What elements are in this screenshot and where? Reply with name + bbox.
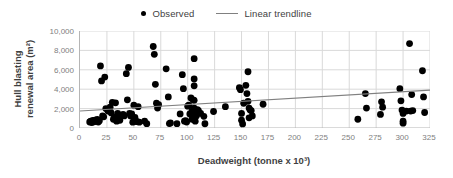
legend-label-trendline: Linear trendline (244, 8, 311, 19)
x-axis-title: Deadweight (tonne x 10³) (79, 155, 429, 166)
x-axis-tick-label: 125 (207, 133, 220, 142)
x-axis-tick-label: 300 (395, 133, 408, 142)
data-point (245, 68, 252, 75)
x-axis-tick-label: 0 (77, 133, 81, 142)
data-point (237, 86, 244, 93)
chart-legend: Observed Linear trendline (0, 4, 453, 22)
x-axis-tick-label: 25 (101, 133, 110, 142)
x-axis-tick-label: 100 (180, 133, 193, 142)
y-axis-tick-label: 10,000 (30, 27, 74, 36)
data-points (86, 40, 428, 127)
legend-item-observed: Observed (141, 8, 194, 19)
data-point (150, 43, 157, 50)
data-point (238, 110, 245, 117)
data-point (180, 85, 187, 92)
data-point (177, 111, 184, 118)
data-point (97, 63, 104, 70)
data-point (222, 103, 229, 110)
data-point (210, 108, 217, 115)
data-point (398, 97, 405, 104)
data-point (165, 94, 172, 101)
data-point (420, 94, 427, 101)
data-point (377, 111, 384, 118)
data-point (200, 113, 207, 120)
x-axis-tick-label: 50 (128, 133, 137, 142)
data-point (191, 97, 198, 104)
y-axis-tick-label: 4,000 (30, 85, 74, 94)
data-point (249, 112, 256, 119)
data-point (396, 85, 403, 92)
x-axis-tick-label: 225 (315, 133, 328, 142)
data-point (191, 55, 198, 62)
legend-label-observed: Observed (152, 8, 194, 19)
data-point (151, 51, 158, 58)
y-axis-tick-label: 0 (30, 124, 74, 133)
data-point (124, 96, 131, 103)
y-axis-tick-label: 8,000 (30, 46, 74, 55)
trendline (80, 90, 430, 111)
y-axis-tick-label: 6,000 (30, 65, 74, 74)
data-point (143, 120, 150, 127)
data-point (409, 107, 416, 114)
data-point (419, 67, 426, 74)
data-point (260, 101, 267, 108)
x-axis-tick-label: 75 (155, 133, 164, 142)
data-point (379, 104, 386, 111)
y-axis-tick-label: 2,000 (30, 104, 74, 113)
x-axis-tick-label: 325 (422, 133, 435, 142)
data-point (408, 91, 415, 98)
legend-item-trendline: Linear trendline (216, 8, 311, 19)
data-point (244, 90, 251, 97)
data-point (363, 105, 370, 112)
data-point (242, 82, 249, 89)
data-point (239, 121, 246, 128)
x-axis-tick-labels: 0255075100125150175200225250275300325 (79, 133, 429, 145)
data-point (155, 101, 162, 108)
data-point (354, 116, 361, 123)
data-point (135, 103, 142, 110)
x-axis-tick-label: 275 (368, 133, 381, 142)
y-axis-title-line1: Hull blasting (12, 51, 24, 108)
data-point (100, 113, 107, 120)
y-axis-tick-labels: 02,0004,0006,0008,00010,000 (28, 31, 74, 128)
data-point (202, 120, 209, 127)
x-axis-tick-label: 150 (234, 133, 247, 142)
data-point (179, 71, 186, 78)
data-point (167, 120, 174, 127)
data-point (191, 76, 198, 83)
data-point (163, 65, 170, 72)
data-point (123, 70, 130, 77)
observed-marker-icon (141, 11, 146, 16)
scatter-chart: Observed Linear trendline Hull blasting … (0, 0, 453, 178)
data-point (101, 74, 108, 81)
data-point (406, 40, 413, 47)
plot-area (79, 31, 429, 128)
data-point (191, 82, 198, 89)
data-point (152, 81, 159, 88)
data-point (421, 109, 428, 116)
data-point (112, 99, 119, 106)
trendline-marker-icon (216, 13, 238, 14)
data-point (174, 120, 181, 127)
plot-canvas (80, 31, 430, 128)
x-axis-tick-label: 200 (288, 133, 301, 142)
data-point (125, 64, 132, 71)
x-axis-tick-label: 250 (342, 133, 355, 142)
x-axis-tick-label: 175 (261, 133, 274, 142)
data-point (400, 120, 407, 127)
